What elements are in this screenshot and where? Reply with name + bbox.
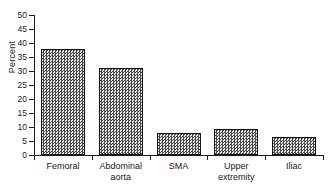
x-axis-line — [34, 155, 323, 156]
y-tick-label-wrap: 40 — [0, 43, 27, 44]
bar — [157, 133, 201, 155]
y-tick-label-wrap: 35 — [0, 57, 27, 58]
x-category-label: Femoral — [34, 161, 92, 172]
x-tick — [207, 155, 208, 160]
y-tick-label: 45 — [3, 25, 27, 33]
y-tick — [29, 141, 35, 142]
bar — [99, 68, 143, 155]
x-tick — [323, 155, 324, 160]
bar-chart: Percent 05101520253035404550 FemoralAbdo… — [0, 0, 331, 195]
y-tick-label: 40 — [3, 39, 27, 47]
bar — [41, 49, 85, 155]
x-category-label: Iliac — [265, 161, 323, 172]
x-tick — [34, 155, 35, 160]
y-tick — [29, 15, 35, 16]
y-tick-label: 35 — [3, 53, 27, 61]
y-tick — [29, 71, 35, 72]
y-tick — [29, 99, 35, 100]
x-tick — [265, 155, 266, 160]
y-tick-label-wrap: 30 — [0, 71, 27, 72]
y-tick — [29, 57, 35, 58]
y-tick-label-wrap: 20 — [0, 99, 27, 100]
y-tick — [29, 113, 35, 114]
y-tick-label-wrap: 0 — [0, 155, 27, 156]
y-tick-label: 0 — [3, 151, 27, 159]
y-tick-label-wrap: 5 — [0, 141, 27, 142]
y-tick-label: 10 — [3, 123, 27, 131]
bar — [214, 129, 258, 155]
y-tick-label: 15 — [3, 109, 27, 117]
x-tick — [92, 155, 93, 160]
y-tick-label-wrap: 45 — [0, 29, 27, 30]
x-tick — [150, 155, 151, 160]
y-tick-label: 50 — [3, 11, 27, 19]
x-category-label: SMA — [150, 161, 208, 172]
y-tick-label: 20 — [3, 95, 27, 103]
y-tick-label-wrap: 50 — [0, 15, 27, 16]
y-tick — [29, 85, 35, 86]
bar — [272, 137, 316, 155]
y-tick — [29, 127, 35, 128]
y-tick-label: 25 — [3, 81, 27, 89]
x-category-label: Abdominal aorta — [92, 161, 150, 182]
y-tick-label-wrap: 25 — [0, 85, 27, 86]
y-tick-label-wrap: 10 — [0, 127, 27, 128]
y-tick — [29, 29, 35, 30]
y-tick — [29, 43, 35, 44]
x-category-label: Upper extremity — [207, 161, 265, 182]
y-tick-label: 30 — [3, 67, 27, 75]
y-tick-label: 5 — [3, 137, 27, 145]
y-tick-label-wrap: 15 — [0, 113, 27, 114]
